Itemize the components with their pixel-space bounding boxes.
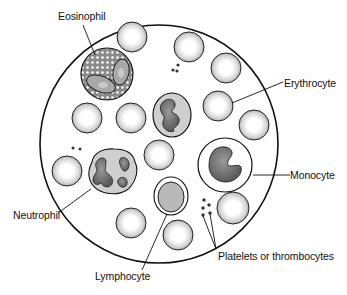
neutrophil-cell <box>89 149 137 194</box>
label-neutrophil: Neutrophil <box>13 209 60 221</box>
label-eosinophil: Eosinophil <box>58 10 105 22</box>
erythrocyte <box>117 22 147 52</box>
leukocyte-small <box>153 93 191 137</box>
lymphocyte-cell <box>154 177 188 215</box>
label-erythrocyte: Erythrocyte <box>284 77 336 89</box>
erythrocyte <box>116 103 146 133</box>
erythrocyte <box>239 110 269 140</box>
erythrocyte <box>163 220 193 250</box>
erythrocyte <box>174 32 204 62</box>
erythrocyte <box>72 103 102 133</box>
monocyte-cell <box>198 138 252 192</box>
erythrocyte <box>217 192 249 224</box>
eosinophil-cell <box>81 48 133 100</box>
label-platelets: Platelets or thrombocytes <box>218 250 334 262</box>
label-monocyte: Monocyte <box>290 169 335 181</box>
erythrocyte <box>211 53 241 83</box>
label-lymphocyte: Lymphocyte <box>95 270 150 282</box>
erythrocyte <box>116 208 146 238</box>
erythrocyte <box>144 140 174 170</box>
erythrocyte <box>203 91 233 121</box>
erythrocyte <box>52 156 82 186</box>
